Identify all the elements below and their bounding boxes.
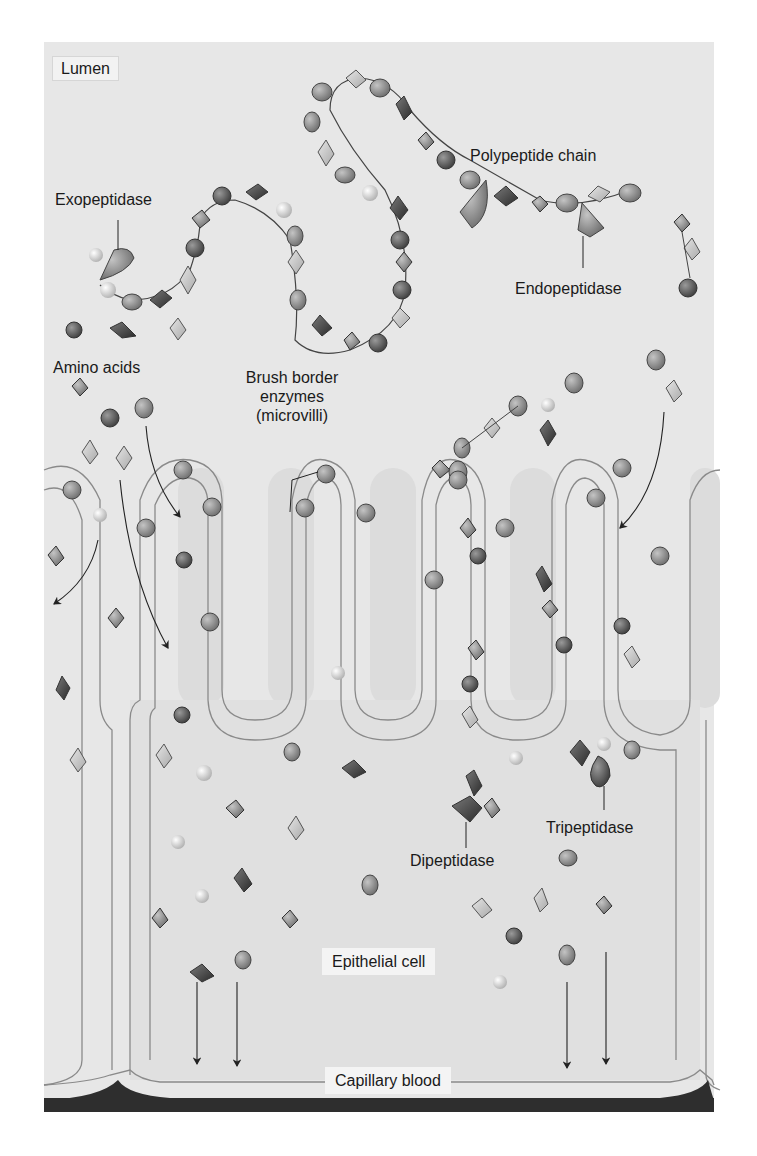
- epithelial-cell-body: [130, 700, 700, 1080]
- label-polypeptide-chain: Polypeptide chain: [470, 146, 596, 165]
- label-tripeptidase: Tripeptidase: [546, 818, 633, 837]
- label-brush-border-enzymes: Brush border enzymes (microvilli): [232, 368, 352, 425]
- label-lumen: Lumen: [52, 56, 119, 81]
- label-brush-border-line3: (microvilli): [232, 406, 352, 425]
- label-capillary-blood: Capillary blood: [325, 1067, 451, 1094]
- label-exopeptidase: Exopeptidase: [55, 190, 152, 209]
- protein-digestion-diagram: [0, 0, 757, 1156]
- label-endopeptidase: Endopeptidase: [515, 279, 622, 298]
- label-amino-acids: Amino acids: [53, 358, 140, 377]
- label-dipeptidase: Dipeptidase: [410, 851, 495, 870]
- label-epithelial-cell: Epithelial cell: [322, 948, 435, 975]
- label-brush-border-line2: enzymes: [232, 387, 352, 406]
- label-brush-border-line1: Brush border: [232, 368, 352, 387]
